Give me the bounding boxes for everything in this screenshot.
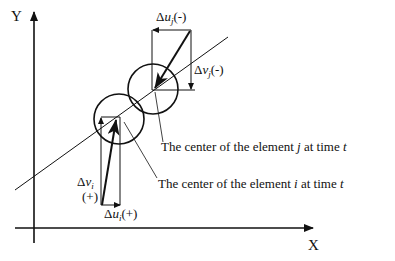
element-j-circle <box>128 64 178 114</box>
delta-v-i-label: Δvi <box>77 175 94 188</box>
caption-text: The center of the element <box>161 139 297 154</box>
leader-line-j <box>155 92 163 142</box>
sign: (-) <box>211 62 224 77</box>
displacement-vector-j <box>155 31 190 88</box>
caption-time: t <box>343 139 347 154</box>
displacement-vector-i <box>102 120 116 205</box>
displacement-box-j <box>152 30 195 90</box>
caption-time: t <box>340 176 344 191</box>
caption-center-i: The center of the element i at time t <box>158 177 344 190</box>
delta-u-i-label: Δui(+) <box>104 207 137 220</box>
delta-v-i-sign: (+) <box>82 190 98 203</box>
contact-line <box>15 37 228 190</box>
x-axis-label: X <box>308 238 319 253</box>
caption-text: at time <box>298 176 340 191</box>
delta-u-j-label: Δuj(-) <box>156 10 186 23</box>
caption-text: at time <box>301 139 343 154</box>
displacement-box-i <box>101 117 120 205</box>
caption-center-j: The center of the element j at time t <box>161 140 347 153</box>
variable: u <box>112 206 119 221</box>
delta-v-j-label: Δvj(-) <box>194 63 224 76</box>
caption-text: The center of the element <box>158 176 294 191</box>
variable: u <box>164 9 171 24</box>
subscript: j <box>208 69 211 79</box>
diagram-svg <box>0 0 395 261</box>
sign: (-) <box>173 9 186 24</box>
sign: (+) <box>121 206 137 221</box>
y-axis-label: Y <box>11 9 22 24</box>
diagram-canvas: Y X Δuj(-) Δvj(-) Δvi (+) Δui(+) The cen… <box>0 0 395 261</box>
